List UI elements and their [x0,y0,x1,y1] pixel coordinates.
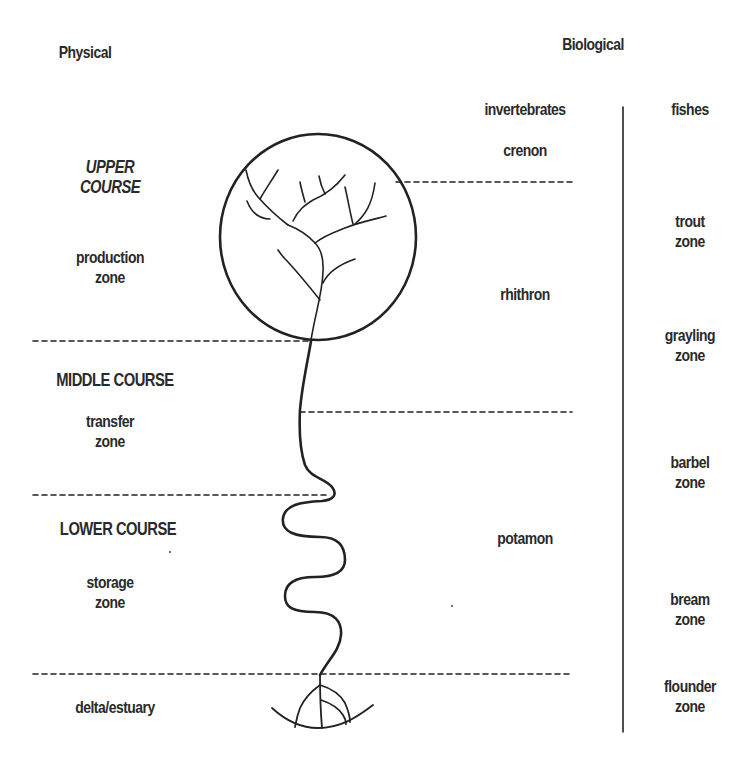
physical-heading: Physical [52,43,118,63]
flounder-zone-label: flounder zone [657,677,723,717]
production-zone-label: production zone [61,248,159,288]
upper-course-label: UPPER COURSE [69,157,151,197]
crenon-label: crenon [488,141,562,161]
barbel-zone-label: barbel zone [657,453,723,493]
biological-heading: Biological [556,35,630,55]
tributary-network-icon [246,170,386,340]
trout-zone-label: trout zone [657,212,723,252]
grayling-zone-label: grayling zone [657,326,723,366]
river-channel [283,341,345,675]
bream-zone-label: bream zone [657,590,723,630]
delta-estuary-icon [272,675,373,728]
middle-course-label: MIDDLE COURSE [49,370,180,390]
rhithron-label: rhithron [488,285,562,305]
delta-estuary-label: delta/estuary [58,698,173,718]
storage-zone-label: storage zone [69,573,151,613]
fishes-heading: fishes [657,100,723,120]
potamon-label: potamon [488,529,562,549]
invertebrates-heading: invertebrates [472,100,579,120]
lower-course-label: LOWER COURSE [52,519,183,539]
transfer-zone-label: transfer zone [69,412,151,452]
